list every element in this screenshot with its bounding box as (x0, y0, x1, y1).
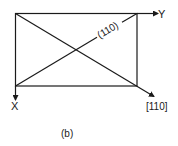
plane-110-label: (110) (95, 19, 120, 40)
crystal-orientation-diagram: Y X [110] (110) (b) (0, 0, 178, 146)
plane-110-line-upper (122, 14, 137, 23)
diagram-svg: Y X [110] (110) (b) (0, 0, 178, 146)
figure-caption: (b) (61, 128, 73, 139)
x-axis-label: X (11, 100, 19, 112)
direction-110-arrow (16, 14, 155, 97)
y-axis-label: Y (158, 8, 166, 20)
plane-110-line-lower (16, 37, 98, 86)
direction-110-label: [110] (146, 101, 168, 112)
